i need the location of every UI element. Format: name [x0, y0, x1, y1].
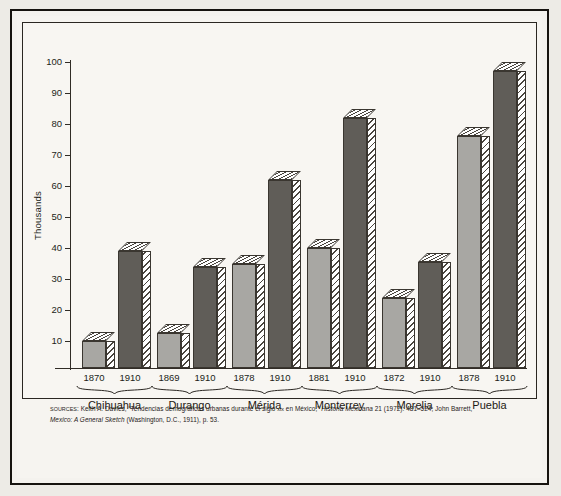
source-part4: (Washington, D.C., 1911), p. 53.	[125, 416, 219, 423]
source-part2: en México,”	[284, 405, 321, 412]
source-part3: 21 (1972): 481–524; John Barrett,	[373, 405, 472, 412]
source-prefix: SOURCES	[50, 406, 77, 412]
source-journal: Historia Mexicana	[321, 405, 373, 412]
source-book: Mexico: A General Sketch	[50, 416, 125, 423]
chart-frame	[22, 22, 537, 399]
source-note: SOURCES: Keith A. Davies, “Tendencias de…	[50, 404, 480, 425]
figure-page: Thousands 102030405060708090100 18701910…	[0, 0, 561, 496]
source-part1: Keith A. Davies, “Tendencias demográfica…	[81, 405, 278, 412]
